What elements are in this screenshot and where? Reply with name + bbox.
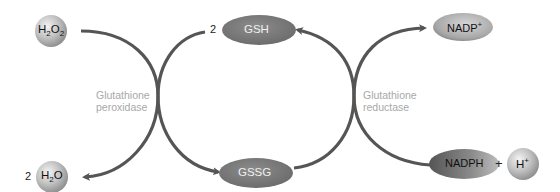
nadp-base: NADP: [447, 22, 478, 34]
nadp-sup: +: [478, 20, 483, 29]
nadp-label: NADP+: [447, 20, 482, 34]
gssg-label: GSSG: [238, 166, 271, 178]
reductase-line1: Glutathione: [363, 89, 417, 101]
arrow-gsh-to-gssg: [158, 32, 218, 172]
h2o2-mid: O: [51, 23, 60, 35]
arrow-gssg-to-gsh: [294, 30, 354, 168]
gsh-label: GSH: [244, 23, 269, 35]
reductase-line2: reductase: [363, 101, 417, 113]
hplus-sup: +: [524, 156, 529, 165]
hplus-label: H+: [516, 156, 529, 170]
enzyme-reductase: Glutathione reductase: [363, 89, 417, 113]
h2o2-sub2: 2: [60, 29, 64, 38]
plus-sign: +: [495, 156, 503, 171]
nadph-label: NADPH: [445, 157, 484, 169]
h2o2-label: H2O2: [38, 23, 64, 38]
peroxidase-line1: Glutathione: [96, 89, 150, 101]
gsh-coefficient: 2: [210, 23, 216, 35]
enzyme-peroxidase: Glutathione peroxidase: [96, 89, 150, 113]
h2o-mid: O: [54, 169, 63, 181]
h2o-coefficient: 2: [25, 170, 31, 182]
h2o-label: H2O: [41, 169, 63, 184]
peroxidase-line2: peroxidase: [96, 101, 150, 113]
